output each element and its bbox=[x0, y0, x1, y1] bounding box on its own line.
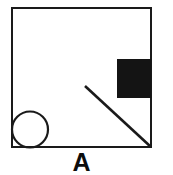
black-filled-rectangle bbox=[117, 59, 151, 98]
figure-panel: A bbox=[0, 0, 173, 175]
figure-label: A bbox=[0, 149, 163, 175]
